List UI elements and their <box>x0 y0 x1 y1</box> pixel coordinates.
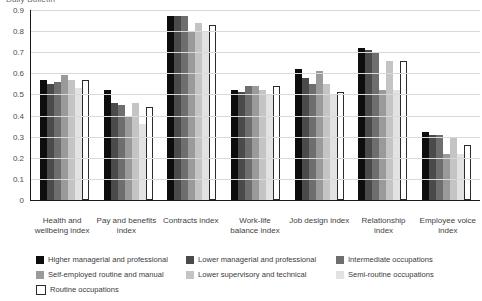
bar[interactable] <box>68 80 75 200</box>
legend-item[interactable]: Semi-routine occupations <box>336 270 476 279</box>
y-axis-tick: 0.9 <box>13 6 24 15</box>
legend-swatch-icon <box>186 271 194 279</box>
legend-swatch-icon <box>336 271 344 279</box>
bar-group <box>224 10 288 200</box>
bar[interactable] <box>252 86 259 200</box>
bar-groups <box>31 10 480 200</box>
bar[interactable] <box>323 84 330 200</box>
bar[interactable] <box>309 84 316 200</box>
legend-swatch-icon <box>186 256 194 264</box>
x-axis-label: Relationship index <box>351 216 415 236</box>
x-axis-label: Job design index <box>287 216 351 236</box>
bar-group <box>160 10 224 200</box>
bar[interactable] <box>75 88 82 200</box>
legend-swatch-icon <box>36 256 44 264</box>
legend-item[interactable]: Lower managerial and professional <box>186 255 336 264</box>
gridline <box>31 158 480 159</box>
bar[interactable] <box>379 90 386 200</box>
bar[interactable] <box>302 78 309 200</box>
legend-item[interactable]: Lower supervisory and technical <box>186 270 336 279</box>
bar[interactable] <box>104 90 111 200</box>
bar[interactable] <box>464 145 471 200</box>
chart-title: Daily Bulletin <box>6 0 55 4</box>
bar-group <box>97 10 161 200</box>
bar[interactable] <box>337 92 344 200</box>
y-axis-tick: 0.1 <box>13 174 24 183</box>
bar[interactable] <box>54 82 61 200</box>
legend-swatch-icon <box>36 271 44 279</box>
y-axis-tick: 0.5 <box>13 90 24 99</box>
gridline <box>31 179 480 180</box>
bar[interactable] <box>132 103 139 200</box>
bar[interactable] <box>146 107 153 200</box>
bar[interactable] <box>316 71 323 200</box>
bar[interactable] <box>429 135 436 200</box>
bar-group <box>287 10 351 200</box>
bar[interactable] <box>436 135 443 200</box>
x-axis-label: Work-life balance index <box>223 216 287 236</box>
bar-group <box>351 10 415 200</box>
legend-item[interactable]: Self-employed routine and manual <box>36 270 186 279</box>
bar[interactable] <box>295 69 302 200</box>
bar[interactable] <box>245 86 252 200</box>
y-axis-tick: 0 <box>20 196 24 205</box>
bar[interactable] <box>167 16 174 200</box>
bar[interactable] <box>118 105 125 200</box>
bar[interactable] <box>111 103 118 200</box>
bar[interactable] <box>40 80 47 200</box>
y-axis-tick: 0.8 <box>13 27 24 36</box>
y-axis-tick: 0.2 <box>13 153 24 162</box>
bar-group <box>33 10 97 200</box>
gridline <box>31 116 480 117</box>
bar[interactable] <box>238 92 245 200</box>
bar[interactable] <box>450 137 457 200</box>
legend-item[interactable]: Routine occupations <box>36 285 186 295</box>
bar[interactable] <box>174 16 181 200</box>
gridline <box>31 52 480 53</box>
chart-legend: Higher managerial and professionalLower … <box>36 252 476 297</box>
bar[interactable] <box>330 94 337 200</box>
x-axis-label: Health and wellbeing index <box>30 216 94 236</box>
bar[interactable] <box>457 154 464 200</box>
legend-label: Higher managerial and professional <box>48 255 168 264</box>
legend-label: Lower managerial and professional <box>198 255 316 264</box>
legend-label: Intermediate occupations <box>348 255 433 264</box>
x-axis-label: Employee voice index <box>416 216 480 236</box>
legend-label: Semi-routine occupations <box>348 270 434 279</box>
bar[interactable] <box>195 23 202 200</box>
legend-item[interactable]: Higher managerial and professional <box>36 255 186 264</box>
gridline <box>31 31 480 32</box>
legend-item[interactable]: Intermediate occupations <box>336 255 476 264</box>
y-axis: 0.90.80.70.60.50.40.30.20.10 <box>0 10 28 200</box>
y-axis-tick: 0.4 <box>13 111 24 120</box>
bar[interactable] <box>422 132 429 200</box>
bar[interactable] <box>372 52 379 200</box>
bar[interactable] <box>139 124 146 200</box>
bar[interactable] <box>273 86 280 200</box>
legend-label: Routine occupations <box>50 285 119 294</box>
plot-canvas <box>30 10 480 201</box>
gridline <box>31 94 480 95</box>
y-axis-tick: 0.7 <box>13 48 24 57</box>
bar[interactable] <box>393 90 400 200</box>
bar[interactable] <box>181 16 188 200</box>
x-axis-label: Pay and benefits index <box>94 216 158 236</box>
bar[interactable] <box>358 48 365 200</box>
bar-chart: Daily Bulletin 0.90.80.70.60.50.40.30.20… <box>0 0 482 301</box>
bar[interactable] <box>209 25 216 200</box>
bar[interactable] <box>231 90 238 200</box>
legend-label: Self-employed routine and manual <box>48 270 164 279</box>
bar[interactable] <box>82 80 89 200</box>
gridline <box>31 137 480 138</box>
plot-area: 0.90.80.70.60.50.40.30.20.10 <box>0 10 482 215</box>
y-axis-tick: 0.6 <box>13 69 24 78</box>
x-axis-label: Contracts index <box>159 216 223 236</box>
bar[interactable] <box>443 154 450 200</box>
legend-swatch-icon <box>36 285 46 295</box>
bar[interactable] <box>259 90 266 200</box>
bar[interactable] <box>266 94 273 200</box>
gridline <box>31 73 480 74</box>
legend-label: Lower supervisory and technical <box>198 270 306 279</box>
legend-swatch-icon <box>336 256 344 264</box>
bar[interactable] <box>47 84 54 200</box>
